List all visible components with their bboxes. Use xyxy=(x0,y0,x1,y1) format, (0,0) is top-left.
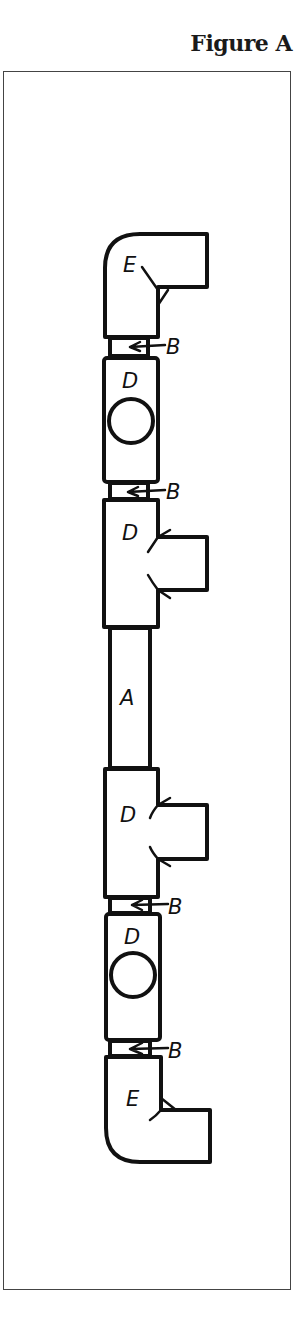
label-b-2: B xyxy=(166,480,180,504)
tee-bottom: D xyxy=(105,769,207,897)
label-d-valve-top: D xyxy=(122,369,138,393)
label-b-1: B xyxy=(166,335,180,359)
pipe-assembly-diagram: E B D B D A D B xyxy=(0,0,303,1342)
label-b-3: B xyxy=(168,895,182,919)
tee-top: D xyxy=(104,500,207,627)
valve-top: D xyxy=(104,358,158,482)
valve-bottom: D xyxy=(106,914,160,1040)
elbow-bottom: E xyxy=(106,1057,210,1162)
label-d-tee-top: D xyxy=(122,521,138,545)
elbow-top: E xyxy=(105,234,207,337)
label-b-4: B xyxy=(168,1039,182,1063)
label-d-valve-bottom: D xyxy=(124,925,140,949)
pipe-a: A xyxy=(110,628,150,768)
label-d-tee-bottom: D xyxy=(120,803,136,827)
label-e-top: E xyxy=(123,253,137,277)
coupling-1: B xyxy=(110,335,180,359)
label-a: A xyxy=(118,686,134,710)
label-e-bottom: E xyxy=(126,1087,140,1111)
